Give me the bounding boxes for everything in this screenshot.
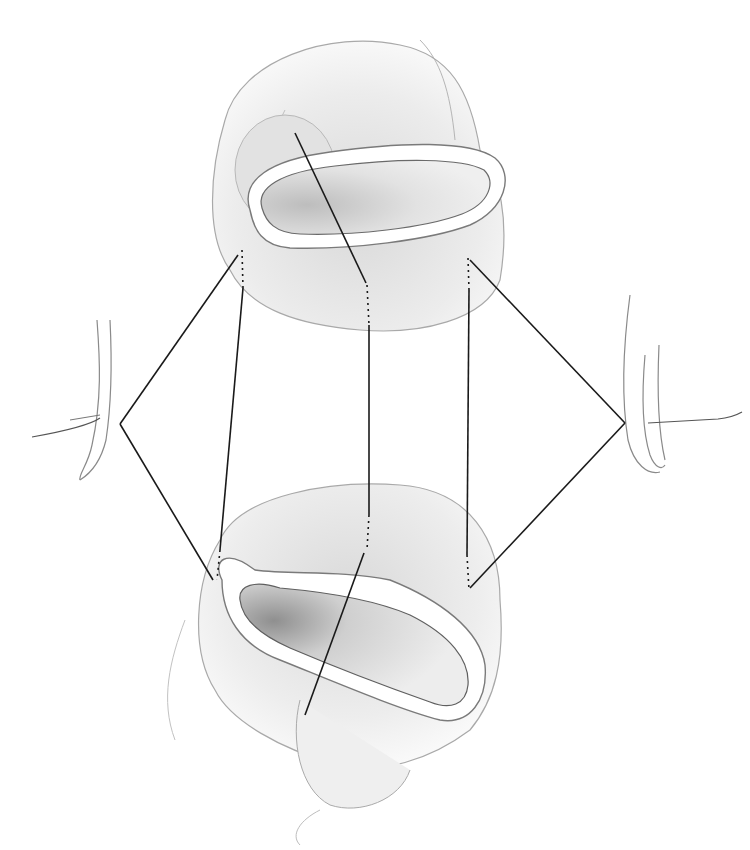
anastomosis-illustration [0,0,750,850]
stay-suture-right-lower [470,423,625,588]
upper-bowel-segment [213,40,506,331]
suture-left-vertical [220,288,243,550]
stay-suture-left-lower [120,424,213,580]
lower-bowel-segment [168,484,502,845]
stay-suture-left-upper [120,255,238,424]
left-forceps-icon [32,320,111,480]
right-forceps-icon [624,295,742,473]
stay-suture-right-upper [470,260,625,423]
